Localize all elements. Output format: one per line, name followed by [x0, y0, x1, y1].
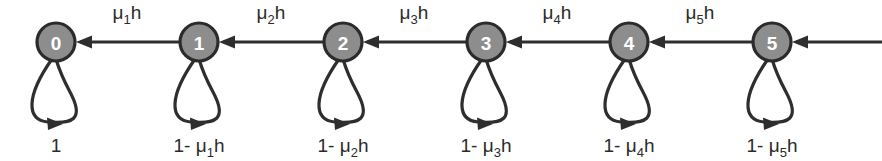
h-glyph: h	[131, 2, 142, 23]
self-loop-label-5: 1- μ5h	[747, 135, 798, 160]
self-loop-2	[319, 59, 363, 130]
transition-edge-1-to-0	[76, 36, 194, 49]
mu-subscript: 3	[411, 12, 418, 27]
loop-mu-subscript: 5	[780, 145, 787, 160]
loop-arrow-head-icon	[334, 118, 350, 131]
arrow-head-icon	[219, 36, 235, 49]
arrow-head-icon	[792, 36, 808, 49]
loop-prefix: 1	[51, 135, 62, 156]
loop-prefix: 1-	[747, 135, 764, 156]
incoming-edge-to-5	[792, 36, 882, 49]
state-node-4[interactable]: 4	[610, 23, 648, 61]
self-loop-5	[748, 59, 792, 130]
mu-subscript: 5	[697, 12, 704, 27]
loop-arrow-head-icon	[190, 118, 206, 131]
mu-subscript: 1	[124, 12, 131, 27]
loop-arrow-head-icon	[47, 118, 63, 131]
loop-arrow-head-icon	[763, 118, 779, 131]
loop-mu-glyph: μ	[340, 135, 351, 156]
loop-mu-subscript: 3	[494, 145, 501, 160]
state-node-3[interactable]: 3	[467, 23, 505, 61]
state-label: 4	[624, 33, 635, 54]
transition-label-2-to-1: μ2h	[257, 2, 286, 27]
loop-arrow-head-icon	[620, 118, 636, 131]
loop-mu-glyph: μ	[483, 135, 494, 156]
transition-label-3-to-2: μ3h	[400, 2, 429, 27]
transition-label-5-to-4: μ5h	[686, 2, 715, 27]
transition-edge-5-to-4	[649, 36, 767, 49]
loop-mu-glyph: μ	[196, 135, 207, 156]
loop-prefix: 1-	[461, 135, 478, 156]
self-loop-3	[462, 59, 506, 130]
self-loop-path	[462, 59, 506, 122]
state-node-0[interactable]: 0	[37, 23, 75, 61]
h-glyph: h	[275, 2, 286, 23]
self-loop-label-3: 1- μ3h	[461, 135, 512, 160]
loop-prefix: 1-	[318, 135, 335, 156]
arrow-head-icon	[76, 36, 92, 49]
self-loop-label-4: 1- μ4h	[604, 135, 655, 160]
h-glyph: h	[561, 2, 572, 23]
arrow-head-icon	[363, 36, 379, 49]
arrow-head-icon	[649, 36, 665, 49]
transition-edge-3-to-2	[363, 36, 481, 49]
state-label: 0	[51, 33, 62, 54]
state-node-1[interactable]: 1	[180, 23, 218, 61]
mu-glyph: μ	[113, 2, 124, 23]
loop-prefix: 1-	[604, 135, 621, 156]
loop-arrow-head-icon	[477, 118, 493, 131]
loop-mu-glyph: μ	[626, 135, 637, 156]
loop-h-glyph: h	[501, 135, 512, 156]
state-label: 3	[481, 33, 492, 54]
self-loop-4	[605, 59, 649, 130]
self-loop-label-0: 1	[51, 135, 62, 156]
mu-subscript: 2	[268, 12, 275, 27]
transition-edge-4-to-3	[506, 36, 624, 49]
state-label: 2	[338, 33, 349, 54]
loop-h-glyph: h	[644, 135, 655, 156]
self-loop-label-1: 1- μ1h	[174, 135, 225, 160]
self-loop-path	[748, 59, 792, 122]
state-label: 5	[767, 33, 778, 54]
transition-label-4-to-3: μ4h	[543, 2, 572, 27]
mu-subscript: 4	[554, 12, 561, 27]
state-node-5[interactable]: 5	[753, 23, 791, 61]
loop-h-glyph: h	[214, 135, 225, 156]
mu-glyph: μ	[400, 2, 411, 23]
arrow-head-icon	[506, 36, 522, 49]
state-label: 1	[194, 33, 205, 54]
h-glyph: h	[418, 2, 429, 23]
self-loop-path	[32, 59, 76, 122]
loop-mu-subscript: 4	[637, 145, 644, 160]
loop-mu-subscript: 1	[207, 145, 214, 160]
self-loop-path	[319, 59, 363, 122]
transition-label-1-to-0: μ1h	[113, 2, 142, 27]
state-node-2[interactable]: 2	[324, 23, 362, 61]
self-loop-label-2: 1- μ2h	[318, 135, 369, 160]
loop-prefix: 1-	[174, 135, 191, 156]
self-loop-0	[32, 59, 76, 130]
loop-h-glyph: h	[358, 135, 369, 156]
transition-edge-2-to-1	[219, 36, 338, 49]
self-loop-path	[175, 59, 219, 122]
mu-glyph: μ	[686, 2, 697, 23]
loop-h-glyph: h	[787, 135, 798, 156]
self-loop-labels: 1 1- μ1h 1- μ2h 1- μ3h 1- μ4h 1- μ5h	[51, 135, 798, 160]
chain-svg: 0 1 2 3 4 5	[0, 0, 882, 161]
loop-mu-subscript: 2	[351, 145, 358, 160]
self-loop-path	[605, 59, 649, 122]
markov-chain-diagram: 0 1 2 3 4 5	[0, 0, 882, 161]
h-glyph: h	[704, 2, 715, 23]
mu-glyph: μ	[257, 2, 268, 23]
self-loop-1	[175, 59, 219, 130]
self-loops	[32, 59, 792, 130]
mu-glyph: μ	[543, 2, 554, 23]
loop-mu-glyph: μ	[769, 135, 780, 156]
